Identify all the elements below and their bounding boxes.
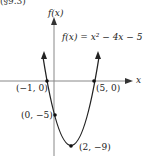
x-axis-arrow-icon [125,78,133,84]
point-0-neg5 [53,113,57,117]
point-label-neg1-0: (−1, 0) [16,84,48,93]
y-axis-label: f(x) [48,9,63,18]
equation-label: f(x) = x² − 4x − 5 [62,33,142,42]
point-label-5-0: (5, 0) [96,84,120,93]
x-axis-label: x [136,76,141,85]
point-label-2-neg9: (2, −9) [79,143,111,152]
point-vertex-2-neg9 [69,144,73,148]
parabola-curve [43,57,99,146]
left-arm-arrow-icon [41,51,47,59]
plot-canvas [0,0,143,159]
point-label-0-neg5: (0, −5) [21,111,53,120]
y-axis-arrow-icon [51,17,57,25]
right-arm-arrow-icon [95,51,101,59]
